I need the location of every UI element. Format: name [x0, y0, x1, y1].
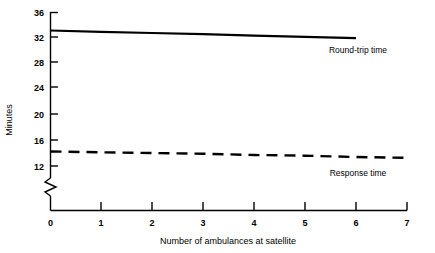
y-tick-label-20: 20: [34, 110, 44, 120]
series-label-round-trip-time: Round-trip time: [329, 45, 387, 55]
line-chart: 36 32 28 24 20 16 12 0 1 2 3 4 5 6 7 Rou…: [0, 0, 435, 253]
series-label-response-time: Response time: [330, 168, 387, 178]
x-tick-label-0: 0: [48, 218, 53, 228]
x-tick-label-4: 4: [251, 218, 256, 228]
chart-background: [0, 0, 435, 253]
x-tick-label-3: 3: [200, 218, 205, 228]
x-tick-label-6: 6: [353, 218, 358, 228]
y-tick-label-32: 32: [34, 33, 44, 43]
x-tick-label-2: 2: [149, 218, 154, 228]
x-axis-title: Number of ambulances at satellite: [160, 236, 296, 246]
y-tick-label-36: 36: [34, 8, 44, 18]
x-tick-label-5: 5: [302, 218, 307, 228]
y-tick-label-28: 28: [34, 58, 44, 68]
figure-container: 36 32 28 24 20 16 12 0 1 2 3 4 5 6 7 Rou…: [0, 0, 435, 253]
x-tick-label-1: 1: [98, 218, 103, 228]
y-tick-label-24: 24: [34, 83, 44, 93]
x-tick-label-7: 7: [404, 218, 409, 228]
y-axis-title: Minutes: [4, 104, 14, 136]
y-tick-label-16: 16: [34, 136, 44, 146]
y-tick-label-12: 12: [34, 162, 44, 172]
